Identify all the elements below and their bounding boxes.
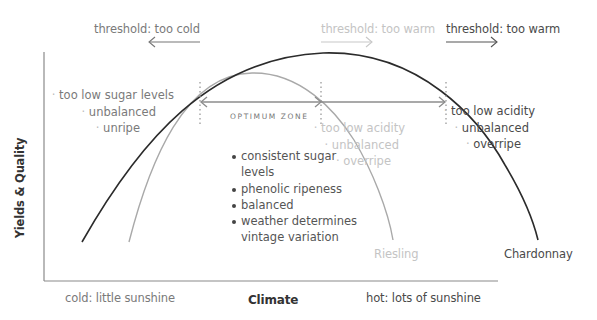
cold-threshold-arrow — [149, 37, 200, 47]
y-axis-label: Yields & Quality — [13, 138, 27, 239]
optimum-zone-label: OPTIMUM ZONE — [230, 112, 309, 121]
chardonnay-label: Chardonnay — [504, 249, 573, 261]
riesling-warm-threshold-arrow — [321, 37, 372, 47]
optimum-bullet: phenolic ripeness — [232, 181, 357, 197]
optimum-bullet: weather determines — [232, 213, 357, 229]
optimum-bullet-continuation: vintage variation — [232, 229, 357, 245]
x-axis-right-label: hot: lots of sunshine — [366, 293, 481, 305]
chardonnay-warm-item: · too low acidity — [444, 103, 535, 120]
chardonnay-warm-threshold-label: threshold: too warm — [446, 24, 560, 36]
chardonnay-warm-item: · unbalanced — [444, 120, 535, 137]
optimum-zone-arrow — [201, 97, 445, 107]
chardonnay-warm-threshold-arrow — [446, 37, 497, 47]
cold-threshold-label: threshold: too cold — [94, 24, 200, 36]
riesling-warm-threshold-label: threshold: too warm — [321, 24, 435, 36]
x-axis-left-label: cold: little sunshine — [65, 293, 175, 305]
climate-quality-diagram: threshold: too cold threshold: too warm … — [0, 0, 597, 320]
optimum-bullet: balanced — [232, 197, 357, 213]
riesling-warm-side-list: · too low acidity · unbalanced · overrip… — [314, 120, 405, 170]
cold-side-item: · unripe — [52, 120, 174, 137]
riesling-warm-item: · too low acidity — [314, 120, 405, 137]
chardonnay-warm-side-list: · too low acidity · unbalanced · overrip… — [444, 103, 535, 153]
riesling-warm-item: · overripe — [314, 153, 405, 170]
cold-side-item: · unbalanced — [52, 104, 174, 121]
cold-side-list: · too low sugar levels · unbalanced · un… — [52, 87, 174, 137]
x-axis-label: Climate — [248, 293, 298, 307]
cold-side-item: · too low sugar levels — [52, 87, 174, 104]
riesling-warm-item: · unbalanced — [314, 137, 405, 154]
riesling-label: Riesling — [374, 249, 418, 261]
chardonnay-warm-item: · overripe — [444, 136, 535, 153]
